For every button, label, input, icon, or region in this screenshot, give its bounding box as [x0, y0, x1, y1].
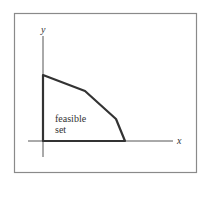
- y-axis-label: y: [40, 24, 46, 35]
- x-axis-label: x: [176, 135, 182, 146]
- region-label-line1: feasible: [55, 113, 87, 124]
- frame-border: [15, 14, 197, 173]
- feasible-set-diagram: y x feasible set: [0, 0, 213, 204]
- region-label-line2: set: [55, 124, 66, 135]
